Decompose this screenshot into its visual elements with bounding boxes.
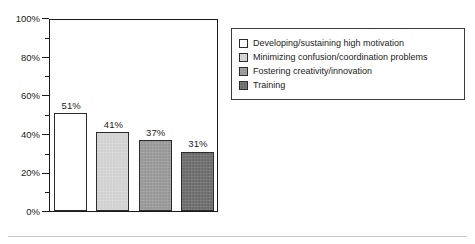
swatch-texture (240, 68, 247, 75)
y-axis-tick-major (42, 95, 49, 96)
legend-swatch-icon (239, 39, 248, 48)
plot-area (49, 19, 218, 212)
y-axis-label: 100% (16, 14, 40, 24)
bar-texture (140, 141, 171, 210)
bar-value-label: 41% (93, 120, 133, 130)
legend-item-label: Developing/sustaining high motivation (253, 38, 404, 49)
y-axis-label: 20% (21, 168, 40, 178)
y-axis-tick-major (42, 211, 49, 212)
bar-texture (182, 153, 213, 211)
legend-swatch-icon (239, 53, 248, 62)
bar-chart-figure: 0%20%40%60%80%100% 51%41%37%31% Developi… (0, 0, 475, 244)
legend: Developing/sustaining high motivationMin… (231, 28, 465, 100)
y-axis-tick-major (42, 57, 49, 58)
bar-texture (97, 133, 128, 210)
y-axis: 0%20%40%60%80%100% (0, 0, 49, 244)
legend-swatch-icon (239, 67, 248, 76)
legend-swatch-icon (239, 81, 248, 90)
bar (96, 132, 129, 211)
y-axis-tick-major (42, 173, 49, 174)
bar (139, 140, 172, 211)
y-axis-label: 40% (21, 130, 40, 140)
bar-value-label: 51% (51, 101, 91, 111)
bar-value-label: 31% (178, 139, 218, 149)
y-axis-label: 0% (26, 207, 40, 217)
legend-item: Fostering creativity/innovation (239, 64, 428, 78)
bottom-divider (8, 236, 467, 237)
legend-item: Minimizing confusion/coordination proble… (239, 50, 428, 64)
legend-item-label: Training (253, 80, 285, 91)
bar-value-label: 37% (136, 128, 176, 138)
y-axis-label: 60% (21, 91, 40, 101)
legend-item-label: Fostering creativity/innovation (253, 66, 372, 77)
legend-item: Training (239, 78, 428, 92)
y-axis-label: 80% (21, 53, 40, 63)
legend-item-label: Minimizing confusion/coordination proble… (253, 52, 428, 63)
legend-list: Developing/sustaining high motivationMin… (239, 36, 428, 92)
y-axis-tick-major (42, 18, 49, 19)
bar (181, 152, 214, 212)
y-axis-tick-major (42, 134, 49, 135)
legend-item: Developing/sustaining high motivation (239, 36, 428, 50)
bar (54, 113, 87, 211)
swatch-texture (240, 82, 247, 89)
swatch-texture (240, 54, 247, 61)
